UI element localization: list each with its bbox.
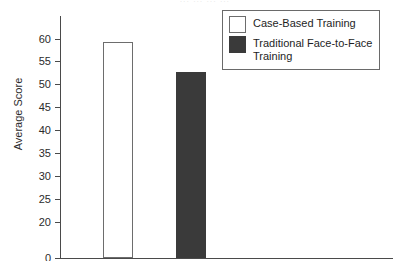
y-tick-label: 50 (20, 79, 51, 90)
y-tick-label: 30 (20, 171, 51, 182)
y-tick-label: 55 (20, 56, 51, 67)
y-tick-label: 40 (20, 125, 51, 136)
bar-chart: ... ... ... ... 6055504540353025200 Aver… (0, 0, 393, 261)
y-tick-mark (55, 199, 61, 200)
y-tick-mark (55, 39, 61, 40)
y-axis-title: Average Score (12, 64, 24, 164)
legend: Case-Based TrainingTraditional Face-to-F… (222, 10, 380, 70)
y-tick-label: 25 (20, 194, 51, 205)
y-tick-mark (55, 61, 61, 62)
y-tick-label: 60 (20, 34, 51, 45)
cropped-header-text-artifact: ... ... ... ... (180, 0, 393, 5)
y-tick-mark (55, 153, 61, 154)
y-tick-label: 45 (20, 102, 51, 113)
y-tick-label: 20 (20, 217, 51, 228)
y-tick-mark (55, 176, 61, 177)
y-tick-label: 0 (20, 253, 51, 261)
y-tick-mark (55, 130, 61, 131)
y-tick-mark (55, 222, 61, 223)
legend-swatch-icon (229, 36, 246, 53)
y-tick-label: 35 (20, 148, 51, 159)
bar-traditional (176, 72, 206, 258)
legend-label: Case-Based Training (253, 16, 356, 30)
x-axis-line (60, 258, 393, 259)
legend-label: Traditional Face-to-Face Training (253, 36, 374, 63)
legend-swatch-icon (229, 16, 246, 33)
legend-item: Case-Based Training (229, 16, 374, 33)
legend-item: Traditional Face-to-Face Training (229, 36, 374, 63)
y-tick-mark (55, 84, 61, 85)
y-tick-mark (55, 258, 61, 259)
y-tick-mark (55, 107, 61, 108)
bar-case-based (103, 42, 133, 258)
